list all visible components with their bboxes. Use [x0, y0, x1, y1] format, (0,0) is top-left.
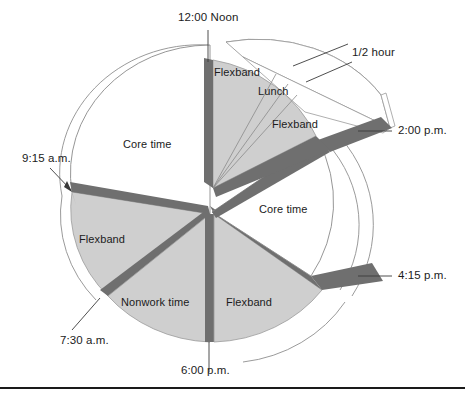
segment-label-lunch: Lunch [258, 85, 288, 97]
label-4-15-pm: 4:15 p.m. [398, 269, 447, 282]
segment-label-flexband-afternoon-top: Flexband [272, 118, 318, 130]
segment-label-core-time-left: Core time [123, 138, 172, 150]
flextime-pie-figure: 12:00 Noon 1/2 hour 2:00 p.m. 4:15 p.m. … [0, 0, 465, 400]
segment-label-flexband-morning-left: Flexband [79, 233, 125, 245]
label-6-00-pm: 6:00 p.m. [181, 364, 230, 377]
spine-band-6pm [205, 214, 214, 342]
segment-label-core-time-right: Core time [259, 203, 308, 215]
label-9-15-am: 9:15 a.m. [22, 152, 71, 165]
label-12-00-noon: 12:00 Noon [178, 11, 238, 24]
segment-label-flexband-morning-top: Flexband [214, 66, 260, 78]
segment-label-flexband-evening: Flexband [226, 296, 272, 308]
noon-group-left-band [204, 58, 213, 188]
leader-730am [72, 298, 100, 330]
label-2-00-pm: 2:00 p.m. [398, 124, 447, 137]
segment-label-nonwork-time: Nonwork time [121, 296, 189, 308]
label-7-30-am: 7:30 a.m. [60, 334, 109, 347]
label-half-hour: 1/2 hour [352, 46, 395, 59]
flexband-evening-explode-tail [311, 263, 383, 290]
